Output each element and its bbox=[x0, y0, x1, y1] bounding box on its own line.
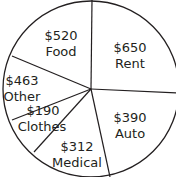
rent-name: Rent bbox=[115, 56, 145, 71]
other-name: Other bbox=[4, 89, 42, 104]
auto-name: Auto bbox=[115, 126, 145, 141]
other-amount: $463 bbox=[5, 73, 38, 88]
food-name: Food bbox=[45, 44, 76, 59]
auto-amount: $390 bbox=[113, 110, 146, 125]
clothes-amount: $190 bbox=[26, 103, 59, 118]
food-amount: $520 bbox=[44, 28, 77, 43]
pie-chart: $650 Rent $390 Auto $312 Medical $190 Cl… bbox=[0, 0, 176, 177]
slice-label-rent: $650 Rent bbox=[113, 40, 146, 71]
medical-name: Medical bbox=[52, 155, 102, 170]
rent-amount: $650 bbox=[113, 40, 146, 55]
slice-label-auto: $390 Auto bbox=[113, 110, 146, 141]
clothes-name: Clothes bbox=[18, 119, 67, 134]
medical-amount: $312 bbox=[60, 139, 93, 154]
slice-label-food: $520 Food bbox=[44, 28, 77, 59]
slice-label-other: $463 Other bbox=[4, 73, 42, 104]
